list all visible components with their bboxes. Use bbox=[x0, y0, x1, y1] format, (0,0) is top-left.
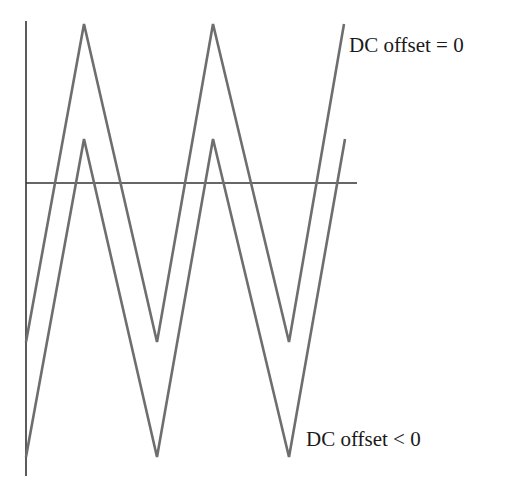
dc-offset-diagram: DC offset = 0 DC offset < 0 bbox=[0, 0, 505, 486]
label-dc-offset-negative: DC offset < 0 bbox=[306, 427, 421, 451]
label-dc-offset-zero: DC offset = 0 bbox=[349, 33, 464, 57]
